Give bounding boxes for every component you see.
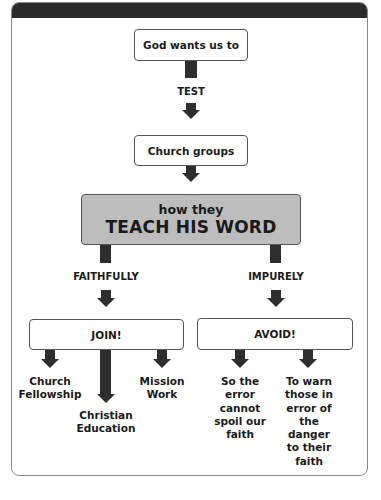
page-number-partial	[175, 492, 207, 500]
arrow-stem	[186, 166, 196, 173]
outcome-mission-work: Mission Work	[138, 375, 186, 402]
left-branch-stem	[100, 245, 111, 263]
top-box-text: God wants us to	[143, 39, 239, 51]
down-arrow-icon	[97, 298, 115, 307]
outcome-church-fellowship: Church Fellowship	[18, 375, 82, 402]
arrow-stem	[271, 290, 281, 298]
header-bar	[12, 3, 367, 18]
arrow-stem	[157, 350, 167, 359]
groups-box-text: Church groups	[148, 145, 234, 157]
down-arrow-icon	[231, 359, 249, 368]
arrow-stem	[45, 350, 55, 359]
outcome-warn-others: To warn those in error of the danger to …	[283, 375, 335, 468]
right-branch-stem	[270, 245, 281, 263]
arrow-stem-long	[100, 350, 111, 394]
join-text: JOIN!	[91, 329, 121, 341]
down-arrow-icon	[182, 173, 200, 182]
down-arrow-icon	[41, 359, 59, 368]
church-groups-box: Church groups	[134, 135, 248, 166]
down-arrow-icon	[97, 394, 115, 403]
impurely-label: IMPURELY	[230, 271, 322, 282]
faithfully-label: FAITHFULLY	[60, 271, 152, 282]
down-arrow-icon	[267, 298, 285, 307]
outcome-christian-education: Christian Education	[76, 409, 136, 436]
connector-stem	[185, 61, 197, 78]
test-label: TEST	[150, 86, 232, 97]
main-box-line2: TEACH HIS WORD	[106, 217, 277, 237]
arrow-stem	[235, 350, 245, 359]
teach-his-word-box: how they TEACH HIS WORD	[81, 194, 301, 245]
down-arrow-icon	[153, 359, 171, 368]
join-box: JOIN!	[29, 319, 184, 350]
arrow-stem	[303, 350, 313, 359]
god-wants-us-to-box: God wants us to	[134, 29, 248, 61]
main-box-line1: how they	[159, 203, 224, 217]
arrow-stem	[101, 290, 111, 298]
outcome-protect-faith: So the error cannot spoil our faith	[214, 375, 266, 441]
arrow-stem	[186, 103, 196, 110]
down-arrow-icon	[182, 110, 200, 119]
avoid-box: AVOID!	[197, 318, 353, 350]
down-arrow-icon	[299, 359, 317, 368]
avoid-text: AVOID!	[254, 328, 296, 340]
